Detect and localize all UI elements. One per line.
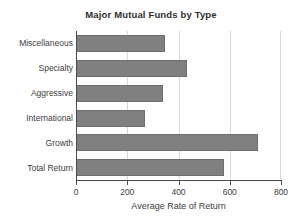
- bar-international: [76, 110, 145, 127]
- x-tick-label-0: 0: [61, 187, 91, 197]
- x-tick-label-200: 200: [112, 187, 142, 197]
- x-tick-mark-800: [281, 181, 282, 185]
- y-axis-tick-labels: Miscellaneous Specialty Aggressive Inter…: [0, 31, 73, 180]
- y-tick-label-growth: Growth: [1, 138, 73, 148]
- bar-specialty: [76, 60, 187, 77]
- chart-title: Major Mutual Funds by Type: [0, 9, 302, 20]
- x-tick-mark-0: [76, 181, 77, 185]
- y-tick-label-miscellaneous: Miscellaneous: [1, 38, 73, 48]
- y-tick-label-international: International: [1, 113, 73, 123]
- bar-band-international: [76, 106, 281, 131]
- bar-band-total-return: [76, 155, 281, 180]
- bar-chart-figure: Major Mutual Funds by Type Miscellaneous…: [0, 0, 302, 222]
- bar-miscellaneous: [76, 35, 165, 52]
- bar-growth: [76, 134, 258, 151]
- y-tick-label-specialty: Specialty: [1, 63, 73, 73]
- bar-total-return: [76, 159, 224, 176]
- x-tick-mark-600: [230, 181, 231, 185]
- bar-aggressive: [76, 85, 163, 102]
- x-tick-mark-400: [179, 181, 180, 185]
- bar-band-miscellaneous: [76, 31, 281, 56]
- y-tick-label-total-return: Total Return: [1, 163, 73, 173]
- bar-band-aggressive: [76, 81, 281, 106]
- x-tick-label-800: 800: [266, 187, 296, 197]
- x-tick-label-400: 400: [164, 187, 194, 197]
- x-tick-mark-200: [127, 181, 128, 185]
- plot-area: [76, 31, 281, 180]
- x-axis-title: Average Rate of Return: [76, 201, 281, 211]
- bar-band-specialty: [76, 56, 281, 81]
- y-tick-label-aggressive: Aggressive: [1, 88, 73, 98]
- x-tick-label-600: 600: [215, 187, 245, 197]
- bar-band-growth: [76, 130, 281, 155]
- y-axis-line: [76, 31, 77, 181]
